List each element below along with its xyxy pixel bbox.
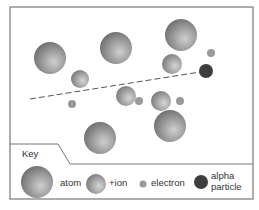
atom-icon [84,122,116,154]
atom-icon [154,110,186,142]
ion-icon [162,54,182,74]
electron-icon [68,100,76,108]
electron-icon [176,97,184,105]
electron-icon [207,49,215,57]
electron-icon [135,97,143,105]
key-alpha-label-line2: particle [211,181,242,192]
key-atom-label: atom [60,177,81,188]
key-alpha-particle-icon [194,175,208,189]
key-title: Key [22,148,39,159]
ion-icon [151,91,171,111]
key-ion-icon [86,174,106,194]
ionisation-diagram: Key atom +ion electron alpha particle [0,0,259,210]
key-ion-label: +ion [109,177,127,188]
alpha-particle-icon [199,64,213,78]
atom-icon [100,32,132,64]
atom-icon [34,42,66,74]
key-atom-icon [21,166,53,198]
ion-icon [116,86,136,106]
key-electron-icon [140,181,147,188]
atom-icon [165,19,197,51]
ion-icon [71,70,89,88]
key-alpha-label-line1: alpha [211,170,235,181]
key-electron-label: electron [151,177,185,188]
